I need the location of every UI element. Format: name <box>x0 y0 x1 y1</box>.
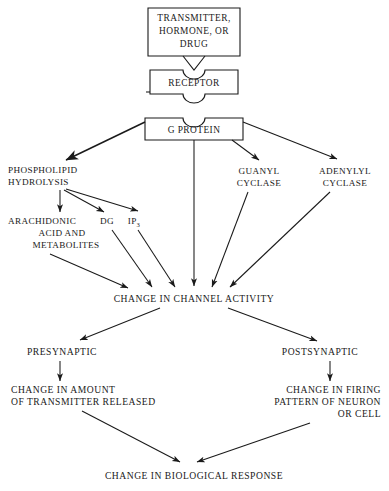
ip3-subscript: 3 <box>137 221 141 228</box>
presynaptic-label: PRESYNAPTIC <box>27 346 97 357</box>
svg-text:IP3: IP3 <box>128 216 141 228</box>
arrow-adenylyl-to-channel <box>230 192 330 287</box>
ip3-base: IP <box>128 216 137 226</box>
arrow-firing-pattern-to-response <box>197 423 310 462</box>
dg-label: DG <box>100 216 114 226</box>
arrow-gprotein-to-adenylyl <box>243 122 337 159</box>
g-protein-label: G PROTEIN <box>168 125 221 135</box>
box-transmitter: TRANSMITTER, HORMONE, OR DRUG <box>148 8 240 56</box>
transmitter-line-2: HORMONE, OR <box>159 26 229 36</box>
label-arachidonic-acid: ARACHIDONIC ACID AND METABOLITES <box>8 216 99 250</box>
firing-line-2: PATTERN OF NEURON <box>274 396 381 407</box>
channel-activity-label: CHANGE IN CHANNEL ACTIVITY <box>114 293 275 304</box>
guanyl-line-1: GUANYL <box>239 166 280 176</box>
receptor-label: RECEPTOR <box>168 78 220 88</box>
arrow-dg-to-channel <box>112 230 152 287</box>
arrow-transmitter-released-to-response <box>82 411 180 462</box>
transmitter-line-1: TRANSMITTER, <box>157 13 230 23</box>
box-g-protein: G PROTEIN <box>145 118 243 140</box>
label-firing-pattern: CHANGE IN FIRING PATTERN OF NEURON OR CE… <box>274 384 381 419</box>
arrow-gprotein-to-guanyl <box>232 140 259 160</box>
guanyl-line-2: CYCLASE <box>237 178 281 188</box>
transmitter-released-line-2: OF TRANSMITTER RELEASED <box>11 396 156 407</box>
arrow-phospholipid-to-dg <box>64 190 104 212</box>
arrow-phospholipid-to-ip3 <box>66 189 138 211</box>
transmitter-released-line-1: CHANGE IN AMOUNT <box>11 384 115 395</box>
signal-transduction-diagram: TRANSMITTER, HORMONE, OR DRUG RECEPTOR G… <box>0 0 389 491</box>
diagram-canvas: TRANSMITTER, HORMONE, OR DRUG RECEPTOR G… <box>0 0 389 491</box>
arrow-ip3-to-channel <box>138 230 175 287</box>
arrow-arachidonic-to-channel <box>50 254 128 288</box>
label-phospholipid-hydrolysis: PHOSPHOLIPID HYDROLYSIS <box>8 165 78 187</box>
firing-line-1: CHANGE IN FIRING <box>286 384 381 395</box>
transmitter-line-3: DRUG <box>180 39 208 49</box>
transmitter-receptor-notch <box>183 56 205 70</box>
arrow-channel-to-postsynaptic <box>228 308 317 341</box>
postsynaptic-label: POSTSYNAPTIC <box>282 346 358 357</box>
label-transmitter-released: CHANGE IN AMOUNT OF TRANSMITTER RELEASED <box>11 384 156 407</box>
adenylyl-line-2: CYCLASE <box>323 178 367 188</box>
arrow-guanyl-to-channel <box>212 192 248 287</box>
label-adenylyl-cyclase: ADENYLYL CYCLASE <box>319 166 371 188</box>
phospholipid-line-1: PHOSPHOLIPID <box>8 165 78 175</box>
arachidonic-line-1: ARACHIDONIC <box>8 216 76 226</box>
firing-line-3: OR CELL <box>338 408 381 419</box>
box-receptor: RECEPTOR <box>150 70 238 103</box>
biological-response-label: CHANGE IN BIOLOGICAL RESPONSE <box>105 470 283 481</box>
arachidonic-line-3: METABOLITES <box>33 240 100 250</box>
ip3-label: IP3 <box>128 216 141 228</box>
arrow-channel-to-presynaptic <box>80 308 160 340</box>
phospholipid-line-2: HYDROLYSIS <box>8 177 69 187</box>
arachidonic-line-2: ACID AND <box>39 228 86 238</box>
adenylyl-line-1: ADENYLYL <box>319 166 371 176</box>
arrow-gprotein-to-phospholipid <box>66 122 145 160</box>
label-guanyl-cyclase: GUANYL CYCLASE <box>237 166 281 188</box>
